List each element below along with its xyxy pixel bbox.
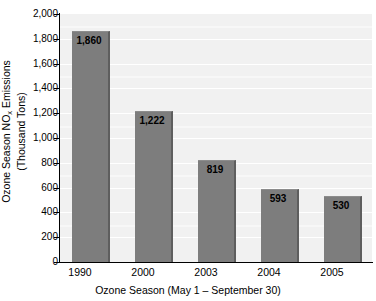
- y-axis-tick: [54, 39, 59, 40]
- y-axis-tick: [54, 14, 59, 15]
- y-tick-label: 1,200: [14, 108, 58, 118]
- bar-value-label: 819: [198, 164, 232, 175]
- y-axis-tick: [54, 212, 59, 213]
- y-tick-label: 600: [14, 183, 58, 193]
- y-axis-tick: [54, 262, 59, 263]
- x-tick-label-2003: 2003: [177, 266, 235, 278]
- x-axis-line: [59, 262, 373, 263]
- bar-value-label: 593: [261, 193, 295, 204]
- bar-1990[interactable]: 1,860: [72, 31, 110, 262]
- chart-figure: Ozone Season NOx Emissions (Thousand Ton…: [0, 0, 376, 301]
- y-axis-tick: [54, 163, 59, 164]
- y-axis-tick: [54, 188, 59, 189]
- y-axis-tick: [54, 138, 59, 139]
- x-tick-label-2004: 2004: [240, 266, 298, 278]
- y-tick-label: 1,600: [14, 59, 58, 69]
- y-axis-title-subscript: x: [5, 110, 14, 114]
- bar-value-label: 1,222: [135, 115, 169, 126]
- x-tick-label-1990: 1990: [51, 266, 109, 278]
- y-tick-label: 400: [14, 207, 58, 217]
- cropped-title-remnant: [150, 0, 340, 4]
- y-axis-tick: [54, 88, 59, 89]
- bar-2004[interactable]: 593: [261, 189, 299, 263]
- y-axis-title-line1: Ozone Season NOx Emissions: [0, 60, 12, 203]
- y-axis-line: [59, 13, 60, 263]
- bar-2000[interactable]: 1,222: [135, 111, 173, 263]
- bar-value-label: 530: [324, 200, 358, 211]
- y-tick-label: 1,800: [14, 34, 58, 44]
- y-axis-tick: [54, 113, 59, 114]
- y-tick-label: 2,000: [14, 9, 58, 19]
- x-tick-label-2000: 2000: [114, 266, 172, 278]
- y-tick-label: 1,400: [14, 83, 58, 93]
- y-axis-tick: [54, 64, 59, 65]
- bar-2003[interactable]: 819: [198, 160, 236, 262]
- bar-value-label: 1,860: [72, 35, 106, 46]
- x-tick-label-2005: 2005: [303, 266, 361, 278]
- grid-band: [60, 26, 372, 28]
- y-tick-label: 200: [14, 232, 58, 242]
- y-tick-label: 1,000: [14, 133, 58, 143]
- y-tick-label: 800: [14, 158, 58, 168]
- plot-area: 1,860 1,222 819 593 530: [60, 14, 372, 262]
- bar-2005[interactable]: 530: [324, 196, 362, 262]
- x-axis-title: Ozone Season (May 1 – September 30): [0, 284, 376, 296]
- y-axis-tick: [54, 237, 59, 238]
